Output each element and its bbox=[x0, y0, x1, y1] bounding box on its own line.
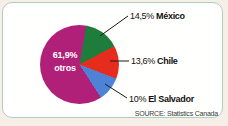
source-credit: SOURCE: Statistics Canada bbox=[135, 110, 218, 117]
mexico-value: 14,5% bbox=[130, 11, 154, 21]
otros-value: 61,9% bbox=[53, 50, 78, 60]
salvador-value: 10% bbox=[129, 94, 146, 104]
callout-chile: 13,6%Chile bbox=[131, 56, 178, 66]
figure: 61,9% otros 14,5%México 13,6%Chile 10%El… bbox=[0, 0, 228, 126]
salvador-name: El Salvador bbox=[148, 94, 194, 104]
chile-name: Chile bbox=[157, 56, 178, 66]
callout-mexico: 14,5%México bbox=[130, 11, 185, 21]
slice-label-otros: 61,9% otros bbox=[40, 49, 90, 75]
mexico-name: México bbox=[156, 11, 185, 21]
otros-name: otros bbox=[54, 63, 76, 73]
callout-salvador: 10%El Salvador bbox=[129, 94, 194, 104]
chile-value: 13,6% bbox=[131, 56, 155, 66]
